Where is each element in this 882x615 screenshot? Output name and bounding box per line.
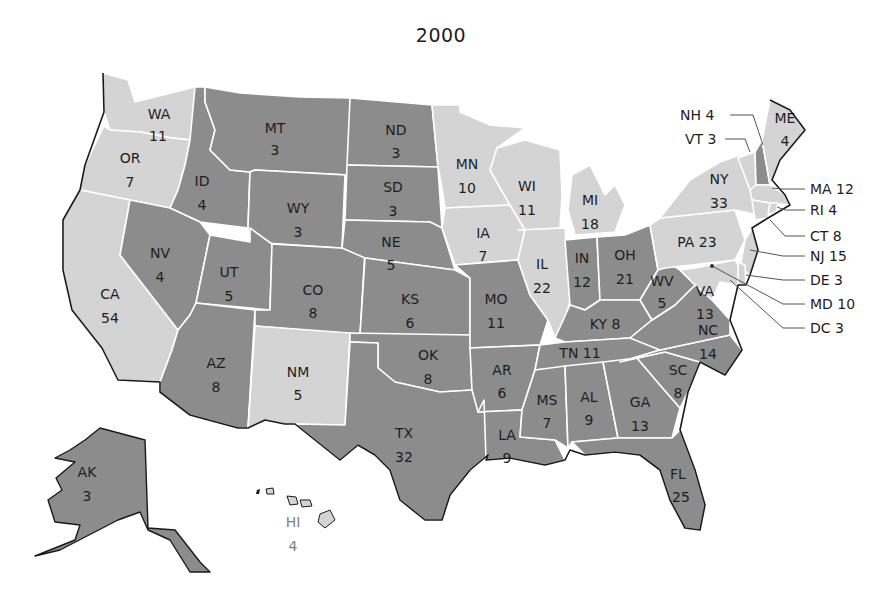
state-CT[interactable] bbox=[752, 200, 770, 220]
svg-text:5: 5 bbox=[387, 257, 396, 273]
svg-text:OR: OR bbox=[120, 150, 141, 166]
svg-text:MO: MO bbox=[484, 291, 507, 307]
svg-text:IA: IA bbox=[476, 225, 490, 241]
svg-text:4: 4 bbox=[156, 269, 165, 285]
svg-text:5: 5 bbox=[658, 295, 667, 311]
svg-text:9: 9 bbox=[503, 450, 512, 466]
svg-text:WA: WA bbox=[148, 106, 171, 122]
svg-text:11: 11 bbox=[149, 128, 167, 144]
svg-text:CA: CA bbox=[100, 286, 120, 302]
svg-text:IL: IL bbox=[536, 256, 548, 272]
svg-text:HI: HI bbox=[286, 514, 301, 530]
svg-text:ME: ME bbox=[775, 110, 796, 126]
svg-text:NH 4: NH 4 bbox=[680, 107, 714, 123]
svg-text:NJ 15: NJ 15 bbox=[810, 248, 847, 264]
state-AK[interactable] bbox=[35, 428, 210, 572]
svg-text:AL: AL bbox=[580, 389, 598, 405]
svg-text:11: 11 bbox=[518, 202, 536, 218]
svg-text:GA: GA bbox=[630, 394, 651, 410]
svg-text:LA: LA bbox=[498, 427, 516, 443]
svg-text:DC 3: DC 3 bbox=[810, 320, 844, 336]
svg-text:MA 12: MA 12 bbox=[810, 181, 854, 197]
svg-text:18: 18 bbox=[581, 216, 599, 232]
svg-text:13: 13 bbox=[696, 306, 714, 322]
svg-text:12: 12 bbox=[573, 274, 591, 290]
svg-text:MN: MN bbox=[456, 156, 479, 172]
svg-text:10: 10 bbox=[458, 180, 476, 196]
svg-text:TX: TX bbox=[394, 425, 414, 441]
svg-text:4: 4 bbox=[198, 197, 207, 213]
svg-text:AZ: AZ bbox=[206, 355, 225, 371]
svg-text:6: 6 bbox=[406, 315, 415, 331]
svg-text:VT 3: VT 3 bbox=[685, 131, 717, 147]
svg-text:3: 3 bbox=[83, 488, 92, 504]
svg-text:DE 3: DE 3 bbox=[810, 272, 843, 288]
us-electoral-map: WA11 OR7 CA54 ID4 NV4 MT3 WY3 UT5 AZ8 CO… bbox=[0, 0, 882, 615]
svg-text:OH: OH bbox=[614, 247, 636, 263]
svg-text:CO: CO bbox=[303, 282, 324, 298]
svg-text:9: 9 bbox=[585, 412, 594, 428]
svg-text:AR: AR bbox=[492, 362, 512, 378]
svg-text:CT 8: CT 8 bbox=[810, 228, 842, 244]
svg-text:KS: KS bbox=[401, 291, 419, 307]
svg-text:WI: WI bbox=[518, 178, 536, 194]
svg-text:54: 54 bbox=[101, 310, 119, 326]
svg-text:32: 32 bbox=[395, 449, 413, 465]
svg-text:3: 3 bbox=[392, 145, 401, 161]
svg-text:RI 4: RI 4 bbox=[810, 202, 837, 218]
svg-text:SC: SC bbox=[669, 362, 688, 378]
svg-text:3: 3 bbox=[271, 142, 280, 158]
svg-text:ID: ID bbox=[195, 173, 210, 189]
svg-text:FL: FL bbox=[670, 466, 686, 482]
svg-text:TN 11: TN 11 bbox=[558, 345, 600, 361]
svg-text:VA: VA bbox=[696, 283, 715, 299]
svg-text:NM: NM bbox=[287, 364, 310, 380]
svg-text:MT: MT bbox=[265, 120, 286, 136]
svg-text:33: 33 bbox=[710, 195, 728, 211]
svg-text:11: 11 bbox=[487, 315, 505, 331]
svg-text:WY: WY bbox=[287, 200, 310, 216]
svg-text:25: 25 bbox=[672, 489, 690, 505]
svg-text:8: 8 bbox=[674, 385, 683, 401]
svg-text:4: 4 bbox=[289, 538, 298, 554]
svg-text:6: 6 bbox=[498, 385, 507, 401]
svg-text:8: 8 bbox=[424, 371, 433, 387]
svg-text:22: 22 bbox=[533, 280, 551, 296]
svg-text:MI: MI bbox=[582, 192, 598, 208]
svg-text:4: 4 bbox=[781, 133, 790, 149]
svg-text:NV: NV bbox=[150, 245, 170, 261]
svg-text:3: 3 bbox=[294, 224, 303, 240]
svg-text:7: 7 bbox=[543, 415, 552, 431]
svg-text:MS: MS bbox=[537, 392, 558, 408]
svg-text:21: 21 bbox=[616, 271, 634, 287]
svg-text:IN: IN bbox=[575, 250, 590, 266]
svg-text:8: 8 bbox=[309, 305, 318, 321]
svg-text:NY: NY bbox=[709, 171, 728, 187]
svg-text:PA 23: PA 23 bbox=[677, 234, 716, 250]
svg-text:UT: UT bbox=[220, 264, 239, 280]
svg-text:OK: OK bbox=[418, 347, 439, 363]
svg-text:5: 5 bbox=[225, 288, 234, 304]
svg-text:7: 7 bbox=[126, 174, 135, 190]
svg-text:ND: ND bbox=[385, 122, 406, 138]
svg-text:8: 8 bbox=[212, 379, 221, 395]
svg-text:14: 14 bbox=[699, 346, 717, 362]
svg-text:SD: SD bbox=[383, 179, 403, 195]
svg-text:AK: AK bbox=[78, 464, 98, 480]
svg-text:5: 5 bbox=[294, 387, 303, 403]
svg-text:KY 8: KY 8 bbox=[590, 316, 621, 332]
svg-text:NE: NE bbox=[381, 234, 400, 250]
svg-text:7: 7 bbox=[479, 248, 488, 264]
svg-text:3: 3 bbox=[389, 203, 398, 219]
svg-text:WV: WV bbox=[650, 273, 674, 289]
svg-text:NC: NC bbox=[698, 322, 718, 338]
svg-text:13: 13 bbox=[631, 418, 649, 434]
svg-text:MD 10: MD 10 bbox=[810, 296, 855, 312]
